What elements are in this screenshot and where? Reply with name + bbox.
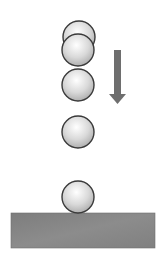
arrow-head bbox=[109, 94, 126, 104]
down-arrow-icon bbox=[109, 50, 126, 104]
falling-ball-diagram bbox=[0, 0, 163, 262]
arrow-shaft bbox=[114, 50, 121, 95]
ball-position-5 bbox=[62, 181, 94, 213]
ball-position-2 bbox=[62, 34, 94, 66]
ball-position-4 bbox=[62, 116, 94, 148]
ground-surface bbox=[11, 213, 155, 248]
ball-position-3 bbox=[62, 69, 94, 101]
